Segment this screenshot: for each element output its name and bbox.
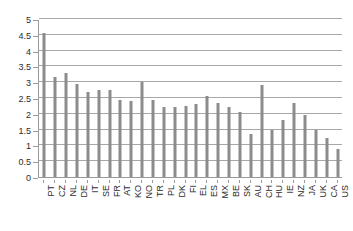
y-tick-label: 4.5 [18, 31, 31, 40]
y-tick-label: 0 [26, 174, 31, 183]
bar-slot [321, 20, 332, 177]
bar-slot [148, 20, 159, 177]
bar [282, 120, 285, 177]
x-tick-mark [65, 180, 66, 183]
x-tick-label: SK [243, 185, 252, 197]
plot-area [38, 20, 342, 178]
x-tick-label: ES [210, 185, 219, 197]
bar-slot [104, 20, 115, 177]
bar-slot [72, 20, 83, 177]
bar-slot [202, 20, 213, 177]
bar-slot [82, 20, 93, 177]
y-tick-label: 1 [26, 142, 31, 151]
bar-slot [39, 20, 50, 177]
x-tick-label: DE [80, 185, 89, 198]
bar [195, 104, 198, 177]
x-tick-label: JA [308, 185, 317, 196]
bar [184, 106, 187, 177]
x-tick-label: CZ [58, 185, 67, 197]
bar [65, 73, 68, 177]
y-tick-label: 0.5 [18, 158, 31, 167]
x-tick-mark [163, 180, 164, 183]
bar [293, 103, 296, 177]
y-tick-label: 2 [26, 110, 31, 119]
bar [54, 77, 57, 177]
bar [303, 115, 306, 177]
y-tick-label: 3.5 [18, 63, 31, 72]
x-tick-mark [250, 180, 251, 183]
x-tick-label: EL [199, 185, 208, 196]
bar [336, 149, 339, 177]
bar-slot [300, 20, 311, 177]
x-tick-mark [76, 180, 77, 183]
bar [162, 107, 165, 177]
x-tick-label: US [341, 185, 350, 198]
x-tick-mark [109, 180, 110, 183]
bar [86, 92, 89, 177]
bar [173, 107, 176, 177]
y-tick-label: 5 [26, 16, 31, 25]
x-tick-label: FR [113, 185, 122, 197]
bar-slot [310, 20, 321, 177]
bar-slot [267, 20, 278, 177]
x-axis: PTCZNLDEITSEFRATKONOTRPLDKFIELESMXBESKAU… [38, 180, 342, 231]
x-tick-mark [87, 180, 88, 183]
bar [141, 82, 144, 177]
bar [271, 130, 274, 177]
x-tick-label: AT [123, 185, 132, 196]
bar-slot [278, 20, 289, 177]
x-tick-label: HU [275, 185, 284, 198]
y-tick-mark [33, 178, 38, 179]
x-tick-label: NZ [297, 185, 306, 197]
bar-slot [234, 20, 245, 177]
bar-slot [158, 20, 169, 177]
y-tick-label: 1.5 [18, 126, 31, 135]
bar [238, 112, 241, 177]
x-tick-mark [282, 180, 283, 183]
bar-slot [213, 20, 224, 177]
x-tick-label: DK [178, 185, 187, 198]
bar [227, 107, 230, 177]
bar-slot [137, 20, 148, 177]
bar-slot [224, 20, 235, 177]
y-tick-label: 2.5 [18, 95, 31, 104]
x-tick-mark [174, 180, 175, 183]
x-tick-label: IT [91, 185, 100, 193]
bar-slot [169, 20, 180, 177]
bar-slot [50, 20, 61, 177]
bar [75, 84, 78, 177]
bar-chart-figure: 00.511.522.533.544.55 PTCZNLDEITSEFRATKO… [0, 0, 353, 231]
bar-slot [180, 20, 191, 177]
x-tick-mark [185, 180, 186, 183]
bar [130, 101, 133, 177]
x-tick-mark [315, 180, 316, 183]
x-tick-label: CA [330, 185, 339, 198]
bar-slot [126, 20, 137, 177]
x-tick-mark [217, 180, 218, 183]
bar [97, 90, 100, 177]
gridline [39, 18, 342, 19]
x-tick-label: PT [47, 185, 56, 197]
bars-layer [39, 20, 342, 177]
bar-slot [332, 20, 343, 177]
bar [43, 33, 46, 177]
x-tick-mark [195, 180, 196, 183]
x-tick-mark [130, 180, 131, 183]
x-tick-mark [98, 180, 99, 183]
x-tick-mark [228, 180, 229, 183]
x-tick-label: FI [189, 185, 198, 193]
y-tick-label: 4 [26, 47, 31, 56]
bar-slot [256, 20, 267, 177]
x-tick-label: BE [232, 185, 241, 197]
x-tick-mark [141, 180, 142, 183]
bar-slot [61, 20, 72, 177]
bar [206, 96, 209, 177]
bar [119, 100, 122, 177]
x-tick-mark [293, 180, 294, 183]
bar [249, 134, 252, 177]
x-tick-mark [239, 180, 240, 183]
x-tick-label: AU [254, 185, 263, 198]
x-tick-mark [43, 180, 44, 183]
x-tick-label: IE [286, 185, 295, 194]
y-tick-label: 3 [26, 79, 31, 88]
